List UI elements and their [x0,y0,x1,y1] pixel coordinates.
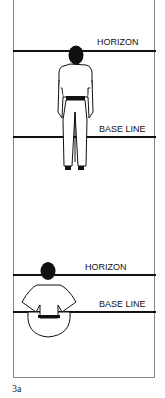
seated-person-icon [0,0,165,398]
figure-label: 3a [12,383,21,394]
